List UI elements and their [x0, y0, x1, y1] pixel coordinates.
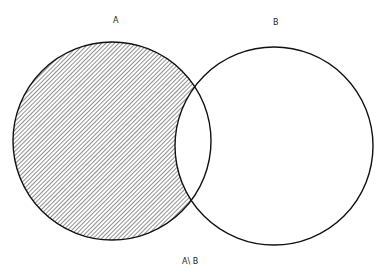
- venn-svg: [0, 0, 386, 277]
- difference-region: [13, 42, 211, 240]
- venn-diagram: A B A\ B: [0, 0, 386, 277]
- set-b-label: B: [273, 18, 279, 27]
- caption: A\ B: [182, 257, 198, 266]
- set-a-label: A: [113, 16, 118, 25]
